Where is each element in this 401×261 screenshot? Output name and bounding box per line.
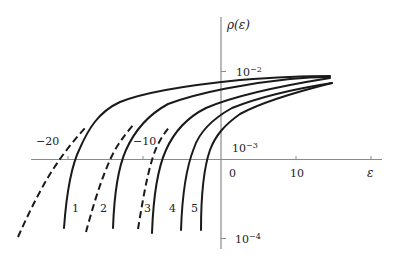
x-tick-label-m20: −20 xyxy=(36,136,59,147)
y-tick-base: 10 xyxy=(236,66,250,79)
y-tick-exp: −4 xyxy=(249,232,261,241)
chart-canvas xyxy=(0,0,401,261)
y-tick-base: 10 xyxy=(235,233,249,246)
x-tick-label-0: 0 xyxy=(229,168,236,179)
curve-2-dashed xyxy=(86,124,134,232)
curve-label-2: 2 xyxy=(100,203,107,214)
x-tick-label-10: 10 xyxy=(290,168,304,179)
x-tick-label-m10: −10 xyxy=(133,136,156,147)
y-axis-title: ρ(ε) xyxy=(227,19,250,31)
curve-label-4: 4 xyxy=(169,203,176,214)
curve-label-1: 1 xyxy=(72,203,79,214)
y-tick-exp: −3 xyxy=(246,141,258,150)
x-axis-title: ε xyxy=(367,167,373,179)
curve-4 xyxy=(181,83,332,230)
curve-label-5: 5 xyxy=(191,203,198,214)
curve-label-3: 3 xyxy=(144,203,151,214)
y-tick-label-1e-2: 10−2 xyxy=(236,66,262,78)
y-tick-exp: −2 xyxy=(250,65,262,74)
y-tick-label-1e-4: 10−4 xyxy=(235,233,261,245)
y-tick-base: 10 xyxy=(232,142,246,155)
y-tick-label-1e-3: 10−3 xyxy=(232,142,258,154)
